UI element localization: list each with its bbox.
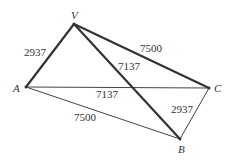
edge-label-c-b: 2937	[171, 103, 194, 115]
edge-v-c	[74, 24, 209, 88]
edge-label-v-a: 2937	[24, 46, 47, 58]
edge-label-v-c: 7500	[140, 42, 163, 54]
edge-label-a-c: 7137	[96, 88, 119, 100]
vertex-label-v: V	[71, 9, 79, 21]
vertex-c-dot	[208, 87, 211, 90]
graph-svg: V A C B 2937 7500 7137 7137 7500 2937	[0, 0, 231, 160]
vertex-a-dot	[25, 86, 28, 89]
diagram-canvas: V A C B 2937 7500 7137 7137 7500 2937	[0, 0, 231, 160]
vertex-label-c: C	[214, 82, 222, 94]
vertex-label-b: B	[178, 143, 185, 155]
edge-label-a-b: 7500	[74, 111, 97, 123]
vertex-v-dot	[73, 23, 76, 26]
vertex-label-a: A	[12, 82, 20, 94]
edge-label-v-b: 7137	[118, 60, 141, 72]
vertex-b-dot	[179, 138, 182, 141]
